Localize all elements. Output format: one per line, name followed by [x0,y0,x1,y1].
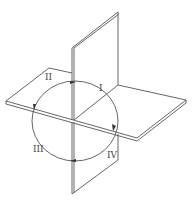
vertical-plane-upper [72,12,119,120]
quadrant-label-iv: IV [107,151,117,160]
horizontal-plane-back-left [6,68,72,101]
horizontal-plane-back-right [118,85,186,100]
quadrant-label-iii: III [33,145,44,154]
quadrant-label-i: I [99,84,103,93]
quadrant-label-ii: II [45,73,52,82]
two-planes-diagram [0,0,195,204]
horizontal-plane-front [6,100,186,141]
quadrant-circle [32,81,118,161]
